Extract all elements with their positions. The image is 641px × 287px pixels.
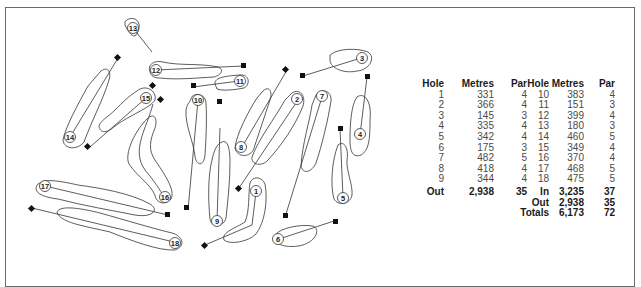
hole-number-label: 11 xyxy=(236,77,244,86)
table-row: 123994 xyxy=(512,111,615,122)
metres-cell: 475 xyxy=(549,174,584,185)
hole-16 xyxy=(128,104,172,203)
header-row: Hole Metres Par xyxy=(411,79,527,90)
table-row: 61753 xyxy=(411,143,527,154)
hole-number-label: 6 xyxy=(276,235,280,244)
tee-marker-icon xyxy=(201,242,208,249)
table-row: 184755 xyxy=(512,174,615,185)
hole-number-label: 17 xyxy=(41,182,49,191)
hole-number-label: 14 xyxy=(66,133,75,142)
tee-marker-icon xyxy=(217,99,222,104)
table-row: 144605 xyxy=(512,132,615,143)
table-row: 153494 xyxy=(512,143,615,154)
hole-number-label: 1 xyxy=(254,187,258,196)
total-label: Totals xyxy=(512,208,549,219)
hole-number-label: 3 xyxy=(360,54,364,63)
par-header: Par xyxy=(584,79,615,90)
hole-number-label: 2 xyxy=(295,95,299,104)
tee-marker-icon xyxy=(191,83,196,88)
hole-number-label: 8 xyxy=(239,143,243,152)
table-row: 93444 xyxy=(411,174,527,185)
metres-cell: 342 xyxy=(444,132,494,143)
table-row: 13314 xyxy=(411,90,527,101)
total-label: Out xyxy=(411,187,444,198)
tee-marker-icon xyxy=(283,213,288,218)
table-row: 103834 xyxy=(512,90,615,101)
par-cell: 5 xyxy=(584,174,615,185)
tee-marker-icon xyxy=(365,74,370,79)
tee-marker-icon xyxy=(114,54,121,61)
hole-4 xyxy=(350,77,370,156)
total-par: 37 xyxy=(584,187,615,198)
tee-marker-icon xyxy=(282,66,289,73)
hole-header: Hole xyxy=(512,79,549,90)
hole-number-label: 12 xyxy=(152,66,160,75)
hole-cell: 18 xyxy=(512,174,549,185)
hole-10 xyxy=(186,94,207,210)
tee-marker-icon xyxy=(165,212,170,217)
hole-number-label: 5 xyxy=(341,194,345,203)
tee-marker-icon xyxy=(149,82,156,89)
tee-marker-icon xyxy=(338,126,343,131)
hole-18 xyxy=(32,208,182,250)
hole-number-label: 10 xyxy=(194,96,202,105)
metres-cell: 460 xyxy=(549,132,584,143)
metres-header: Metres xyxy=(549,79,584,90)
tee-marker-icon xyxy=(84,143,91,150)
table-row: 43354 xyxy=(411,121,527,132)
table-row: 23664 xyxy=(411,100,527,111)
hole-2 xyxy=(239,91,304,188)
in-total-row: In3,23537 xyxy=(512,187,615,198)
hole-cell: 14 xyxy=(512,132,549,143)
tee-marker-icon xyxy=(184,205,189,210)
hole-number-label: 9 xyxy=(215,217,219,226)
hole-number-label: 15 xyxy=(142,94,150,103)
hole-cell: 5 xyxy=(411,132,444,143)
hole-9 xyxy=(209,128,230,225)
header-row: Hole Metres Par xyxy=(512,79,615,90)
hole-cell: 9 xyxy=(411,174,444,185)
table-row: 111513 xyxy=(512,100,615,111)
table-row: 163704 xyxy=(512,153,615,164)
tee-marker-icon xyxy=(157,96,164,103)
hole-number-label: 13 xyxy=(129,24,137,33)
table-row: 53424 xyxy=(411,132,527,143)
table-row: 131803 xyxy=(512,121,615,132)
total-metres: 2,938 xyxy=(444,187,494,198)
scorecard-front-nine: Hole Metres Par 13314 23664 31453 43354 … xyxy=(411,79,527,198)
hole-number-label: 18 xyxy=(171,239,179,248)
hole-header: Hole xyxy=(411,79,444,90)
total-par: 72 xyxy=(584,208,615,219)
out-total-row: Out2,93835 xyxy=(411,187,527,198)
total-metres: 6,173 xyxy=(549,208,584,219)
metres-header: Metres xyxy=(444,79,494,90)
table-row: 174685 xyxy=(512,164,615,175)
hole-number-label: 7 xyxy=(320,92,324,101)
total-metres: 3,235 xyxy=(549,187,584,198)
par-cell: 5 xyxy=(584,132,615,143)
table-row: 84184 xyxy=(411,164,527,175)
hole-7 xyxy=(286,91,331,214)
tee-marker-icon xyxy=(28,205,35,212)
tee-marker-icon xyxy=(241,63,246,68)
tee-marker-icon xyxy=(235,185,242,192)
total-label: In xyxy=(512,187,549,198)
hole-6 xyxy=(275,221,334,247)
tee-markers xyxy=(28,54,370,249)
table-row: 74825 xyxy=(411,153,527,164)
metres-cell: 344 xyxy=(444,174,494,185)
grand-total-row: Totals6,17372 xyxy=(512,208,615,219)
tee-marker-icon xyxy=(300,73,305,78)
scorecard-back-nine: Hole Metres Par 103834 111513 123994 131… xyxy=(512,79,615,219)
table-row: 31453 xyxy=(411,111,527,122)
hole-number-label: 16 xyxy=(161,193,169,202)
tee-marker-icon xyxy=(333,219,338,224)
